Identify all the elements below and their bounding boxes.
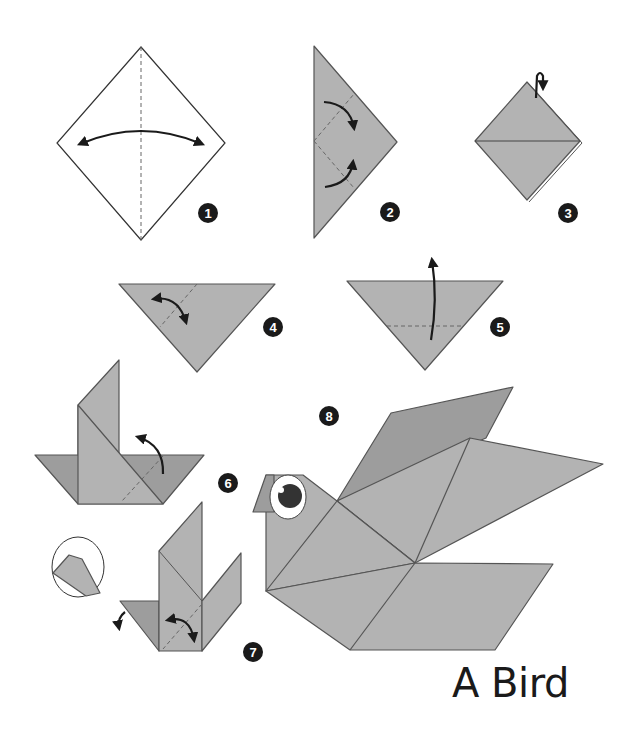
step-2: 2: [314, 46, 400, 238]
step-5: 5: [347, 260, 510, 370]
right-flap: [202, 553, 241, 651]
left-flap: [120, 601, 159, 651]
step-number: 1: [204, 206, 211, 221]
step-number: 3: [564, 206, 571, 221]
step-number: 4: [269, 320, 277, 335]
step-number: 5: [496, 320, 503, 335]
origami-instructions: 1 2 3 4 5: [0, 0, 633, 732]
step-number: 2: [386, 205, 393, 220]
small-arrow-icon: [119, 612, 125, 628]
step-number: 8: [325, 409, 332, 424]
step-4: 4: [119, 284, 283, 372]
flip-arrow-icon: [536, 73, 543, 98]
step-1: 1: [57, 47, 225, 240]
step-3: 3: [475, 73, 582, 223]
eye-highlight: [278, 487, 284, 493]
inverted-triangle-paper: [119, 284, 275, 372]
step-8: 8: [253, 387, 603, 650]
step-7: 7: [52, 502, 263, 662]
step-number: 7: [249, 645, 256, 660]
step-number: 6: [224, 476, 231, 491]
step-6: 6: [35, 360, 238, 504]
diagram-title: A Bird: [452, 660, 569, 706]
